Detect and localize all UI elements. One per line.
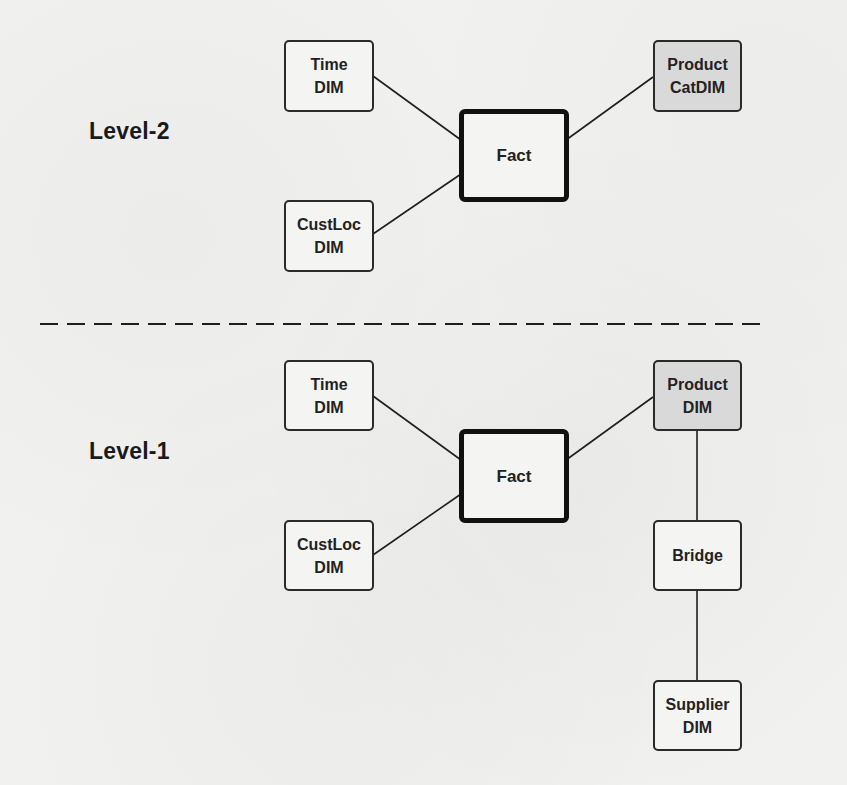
node-label-line1: Time (310, 53, 347, 76)
l1-fact-node: Fact (459, 429, 569, 523)
l1-time-dim-node: Time DIM (284, 360, 374, 431)
node-label-line1: CustLoc (297, 533, 361, 556)
edge-l1-custloc-fact (373, 494, 461, 555)
edge-l1-fact-product (566, 397, 653, 460)
node-label-line2: DIM (314, 556, 343, 579)
level-1-label: Level-1 (89, 438, 170, 465)
l1-bridge-node: Bridge (653, 520, 742, 591)
node-label-line1: Fact (497, 465, 532, 488)
l2-custloc-dim-node: CustLoc DIM (284, 200, 374, 272)
l1-custloc-dim-node: CustLoc DIM (284, 520, 374, 591)
l1-supplier-dim-node: Supplier DIM (653, 680, 742, 751)
level-2-label: Level-2 (89, 118, 170, 145)
node-label-line1: Product (667, 53, 727, 76)
node-label-line2: DIM (314, 76, 343, 99)
node-label-line2: DIM (683, 396, 712, 419)
node-label-line1: Fact (497, 144, 532, 167)
node-label-line1: Product (667, 373, 727, 396)
node-label-line1: Bridge (672, 544, 723, 567)
l2-time-dim-node: Time DIM (284, 40, 374, 112)
node-label-line2: DIM (683, 716, 712, 739)
l2-fact-node: Fact (459, 109, 569, 202)
node-label-line1: Time (310, 373, 347, 396)
node-label-line2: CatDIM (670, 76, 725, 99)
node-label-line1: CustLoc (297, 213, 361, 236)
l2-product-catdim-node: Product CatDIM (653, 40, 742, 112)
node-label-line1: Supplier (665, 693, 729, 716)
edge-l2-time-fact (373, 76, 461, 140)
l1-product-dim-node: Product DIM (653, 360, 742, 431)
edge-l2-fact-product (566, 77, 653, 140)
node-label-line2: DIM (314, 396, 343, 419)
edge-l1-time-fact (373, 396, 461, 460)
edge-l2-custloc-fact (373, 174, 461, 234)
node-label-line2: DIM (314, 236, 343, 259)
